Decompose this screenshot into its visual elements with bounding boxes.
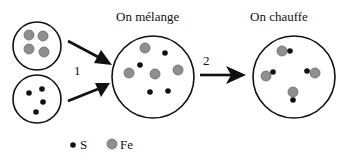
sulfur-container [13, 75, 61, 123]
step-1-number: 1 [74, 63, 81, 78]
sulfur-particle-icon [162, 50, 168, 56]
iron-particle-icon [124, 68, 134, 78]
iron-particle-icon [140, 43, 150, 53]
sulfur-particle-icon [40, 99, 46, 105]
sulfur-particle-icon [165, 88, 171, 94]
legend-iron-label: Fe [120, 137, 133, 152]
sulfur-particle-icon [137, 62, 143, 68]
sulfur-particle-icon [147, 89, 153, 95]
iron-particle-icon [173, 65, 183, 75]
step-2-number: 2 [203, 53, 210, 68]
black-dot-icon [70, 142, 76, 148]
sulfur-particle-icon [33, 109, 39, 115]
iron-particle-icon [39, 47, 49, 57]
mixture-container [112, 36, 194, 118]
iron-particle-icon [24, 30, 34, 40]
iron-particle-icon [38, 31, 48, 41]
legend: S Fe [70, 137, 133, 152]
compound-container [253, 36, 335, 118]
arrow-icon-step2 [200, 66, 246, 84]
legend-sulfur-label: S [80, 137, 87, 152]
arrow-icon-step1-upper [68, 41, 112, 65]
iron-container [13, 22, 61, 70]
sulfur-particle-icon [39, 86, 45, 92]
mix-stage-label: On mélange [116, 9, 179, 24]
heat-stage-label: On chauffe [250, 9, 308, 24]
grey-dot-icon [107, 139, 117, 149]
sulfur-iron-reaction-diagram: 1 On mélange 2 On chauffe [0, 0, 348, 163]
arrow-icon-step1-lower [68, 83, 110, 101]
iron-particle-icon [24, 44, 34, 54]
sulfur-particle-icon [26, 90, 32, 96]
iron-particle-icon [150, 69, 160, 79]
